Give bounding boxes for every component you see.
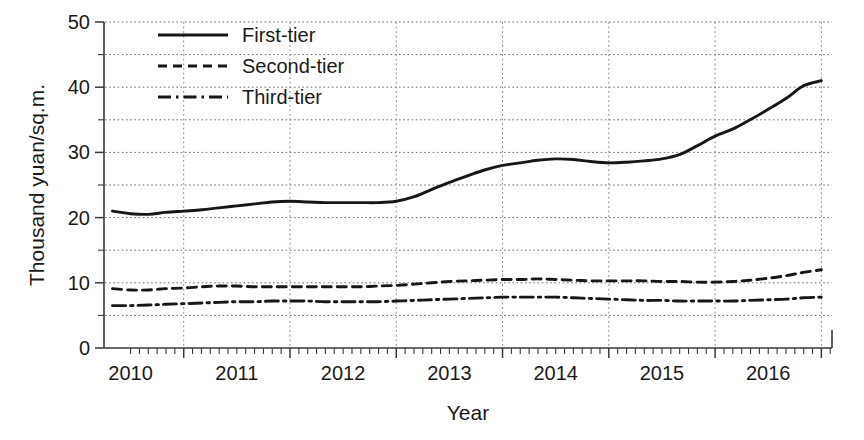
chart-canvas: 01020304050 2010201120122013201420152016… <box>0 0 864 440</box>
y-axis-title: Thousand yuan/sq.m. <box>25 84 48 286</box>
x-tick-label: 2010 <box>108 362 153 384</box>
x-tick-label: 2014 <box>533 362 578 384</box>
x-tick-label: 2015 <box>640 362 685 384</box>
x-tick-label: 2013 <box>427 362 472 384</box>
x-tick-label: 2012 <box>321 362 366 384</box>
y-tick-label: 20 <box>68 207 90 229</box>
y-tick-label: 40 <box>68 76 90 98</box>
x-axis-title: Year <box>447 401 489 424</box>
legend-label: Third-tier <box>242 86 322 108</box>
legend-label: First-tier <box>242 24 316 46</box>
y-tick-label: 0 <box>79 337 90 359</box>
y-tick-label: 10 <box>68 272 90 294</box>
y-tick-label: 30 <box>68 141 90 163</box>
line-chart-figure: 01020304050 2010201120122013201420152016… <box>0 0 864 440</box>
x-tick-label: 2011 <box>215 362 258 384</box>
legend-label: Second-tier <box>242 55 345 77</box>
y-tick-label: 50 <box>68 11 90 33</box>
x-tick-label: 2016 <box>746 362 791 384</box>
